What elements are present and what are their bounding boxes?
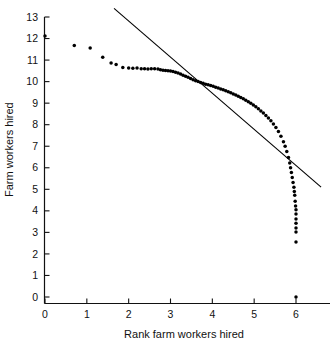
y-tick-label-9: 9 — [32, 97, 38, 109]
data-point — [288, 161, 292, 165]
y-tick-label-0: 0 — [32, 291, 38, 303]
data-point — [143, 67, 147, 71]
x-tick-label-3: 3 — [168, 308, 174, 320]
data-point — [290, 171, 294, 175]
y-tick-label-11: 11 — [27, 54, 38, 66]
data-point — [279, 135, 283, 139]
x-tick-label-group: 0123456 — [42, 308, 299, 320]
y-tick-label-13: 13 — [26, 11, 38, 23]
data-point — [127, 66, 131, 70]
data-point — [146, 67, 150, 71]
data-point — [131, 67, 135, 71]
data-point — [153, 67, 157, 71]
data-point — [293, 194, 297, 198]
data-point — [101, 56, 105, 60]
data-point — [285, 150, 289, 154]
x-tick-label-5: 5 — [251, 308, 257, 320]
x-tick-label-0: 0 — [42, 308, 48, 320]
y-tick-label-4: 4 — [32, 204, 38, 216]
data-point — [135, 66, 139, 70]
y-tick-label-6: 6 — [32, 161, 38, 173]
data-point — [294, 208, 298, 212]
data-point — [294, 222, 298, 226]
data-point-group — [43, 34, 298, 299]
data-point — [293, 199, 297, 203]
data-point — [150, 67, 154, 71]
data-point — [293, 190, 297, 194]
y-tick-label-12: 12 — [26, 32, 38, 44]
data-point — [272, 122, 276, 126]
data-point — [294, 217, 298, 221]
axis-lines — [45, 17, 331, 304]
data-point — [294, 212, 298, 216]
data-point — [264, 114, 268, 118]
data-point — [294, 295, 298, 299]
y-tick-label-3: 3 — [32, 226, 38, 238]
y-tick-label-7: 7 — [32, 140, 38, 152]
data-point — [292, 185, 296, 189]
data-point — [43, 34, 47, 38]
x-tick-label-6: 6 — [293, 308, 299, 320]
data-point — [277, 130, 281, 134]
x-tick-label-1: 1 — [84, 308, 90, 320]
data-point — [283, 144, 287, 148]
data-point — [121, 66, 125, 70]
data-point — [267, 116, 271, 120]
x-tick-label-2: 2 — [126, 308, 132, 320]
y-tick-label-8: 8 — [32, 118, 38, 130]
x-tick-label-4: 4 — [209, 308, 215, 320]
data-point — [289, 166, 293, 170]
y-tick-label-5: 5 — [32, 183, 38, 195]
y-tick-label-10: 10 — [26, 75, 38, 87]
data-point — [274, 126, 278, 130]
data-point — [294, 240, 298, 244]
rank-size-scatter-plot: Farm workers hired Rank farm workers hir… — [0, 0, 335, 345]
y-axis-ticks — [45, 17, 50, 297]
data-point — [88, 46, 92, 50]
data-point — [139, 67, 143, 71]
reference-line-segment — [114, 8, 321, 187]
x-axis-ticks — [45, 299, 296, 304]
data-point — [291, 181, 295, 185]
data-point — [290, 176, 294, 180]
data-point — [294, 204, 298, 208]
y-tick-label-2: 2 — [32, 248, 38, 260]
data-point — [294, 230, 298, 234]
data-point — [114, 63, 118, 67]
y-tick-label-group: 012345678910111213 — [26, 11, 38, 303]
data-point — [294, 226, 298, 230]
y-tick-label-1: 1 — [32, 269, 38, 281]
chart-figure: Farm workers hired Rank farm workers hir… — [0, 0, 335, 345]
data-point — [287, 156, 291, 160]
data-point — [282, 140, 286, 144]
y-axis-title: Farm workers hired — [3, 102, 15, 197]
reference-line — [114, 8, 321, 187]
data-point — [73, 44, 77, 48]
x-axis-title: Rank farm workers hired — [124, 328, 244, 340]
data-point — [269, 119, 273, 123]
data-point — [109, 61, 113, 65]
